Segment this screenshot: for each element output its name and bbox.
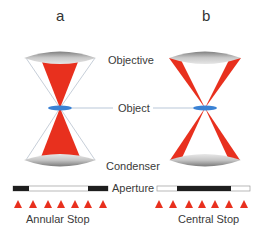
object-label: Object [118,102,150,114]
light-cone-lower-b-right [205,108,240,160]
panel-title-b: b [202,8,210,24]
light-triangles-a [14,200,107,208]
objective-lens-a [24,52,96,65]
panel-a-optics [24,52,96,167]
aperture-central [157,186,250,191]
stop-label-a: Annular Stop [26,213,90,225]
light-triangles-b [155,200,248,208]
light-cone-upper-b-left [169,58,205,108]
panel-b-optics [169,52,241,167]
light-cone-lower-b-left [170,108,205,160]
object-specimen-a [48,105,72,110]
microscope-diagram [0,0,261,234]
aperture-annular [13,186,108,191]
light-cone-upper-a [42,62,78,108]
condenser-lens-a [24,154,96,167]
objective-label: Objective [108,54,154,66]
condenser-label: Condenser [106,160,160,172]
object-specimen-b [193,105,217,110]
light-cone-lower-a [41,108,80,157]
aperture-label: Aperture [112,182,154,194]
panel-title-a: a [56,8,64,24]
stop-label-b: Central Stop [178,213,239,225]
light-cone-upper-b-right [205,58,241,108]
